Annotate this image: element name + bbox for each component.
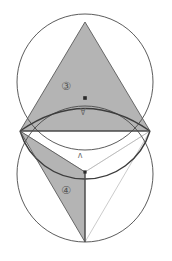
geometric-figure: ③ Ɐ ʌ ④ bbox=[0, 0, 172, 261]
geometry-canvas bbox=[0, 0, 172, 261]
center-point-marker bbox=[83, 170, 86, 173]
upper-triangle-fill bbox=[20, 22, 150, 131]
construction-line-right-to-bottom bbox=[85, 131, 150, 242]
arc-top-point-marker bbox=[83, 96, 87, 100]
